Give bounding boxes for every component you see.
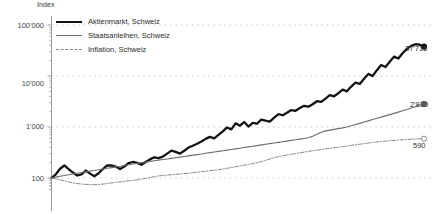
legend-item-aktienmarkt: Aktienmarkt, Schweiz [56,14,170,28]
endpoint-markers [421,44,427,142]
ytick-label-1000: 1'000 [0,122,44,131]
series-line-aktienmarkt [52,44,425,178]
ytick-label-100000: 100'000 [0,21,44,30]
line-swatch-icon [56,46,82,53]
end-label-aktienmarkt: 37'716 [405,44,427,53]
series-line-inflation [52,139,425,185]
legend-label-staatsanleihen: Staatsanleihen, Schweiz [88,31,170,40]
end-label-staatsanleihen: 2'830 [410,100,428,109]
line-swatch-icon [56,32,82,39]
legend-label-inflation: Inflation, Schweiz [88,45,146,54]
series-line-staatsanleihen [52,104,425,178]
legend-label-aktienmarkt: Aktienmarkt, Schweiz [88,17,160,26]
chart-legend: Aktienmarkt, Schweiz Staatsanleihen, Sch… [56,14,170,56]
ytick-label-10000: 10'000 [0,79,44,88]
y-axis-title: Index [37,1,55,8]
legend-item-staatsanleihen: Staatsanleihen, Schweiz [56,28,170,42]
y-axis-ticks [48,25,52,189]
line-swatch-icon [56,18,82,25]
chart-container: Index 100'000 10'000 1'000 100 Aktienmar… [0,0,437,214]
ytick-label-100: 100 [0,174,44,183]
data-series-layer [52,44,425,184]
legend-item-inflation: Inflation, Schweiz [56,42,170,56]
end-label-inflation: 590 [413,141,426,150]
